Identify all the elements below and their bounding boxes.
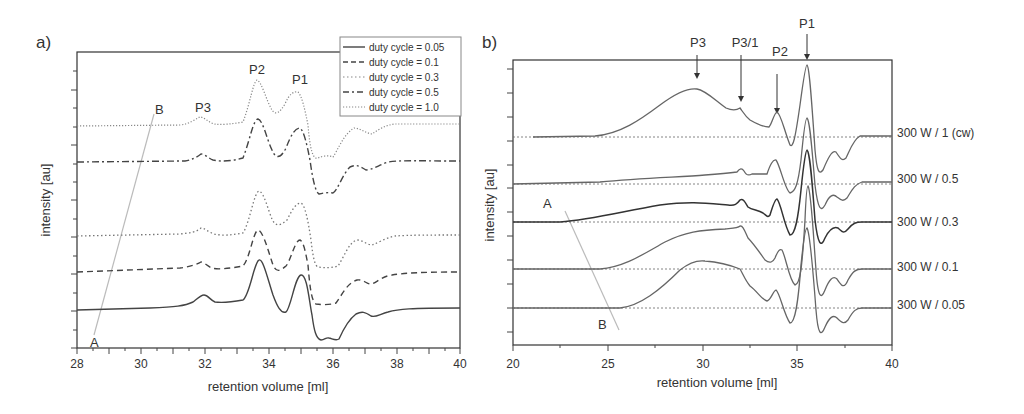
x-tick-label: 28 <box>70 357 84 371</box>
x-tick-label: 36 <box>326 357 340 371</box>
legend-entry: duty cycle = 0.3 <box>369 72 439 83</box>
legend-entry: duty cycle = 0.1 <box>369 57 439 68</box>
panel-b-x-tick-labels: 20 25 30 35 40 <box>506 357 899 371</box>
panel-a-legend: duty cycle = 0.05 duty cycle = 0.1 duty … <box>340 37 461 116</box>
series-duty-0.05 <box>77 260 460 340</box>
panel-b-label: b) <box>482 33 497 52</box>
x-tick-label: 20 <box>506 357 520 371</box>
legend-entry: duty cycle = 0.5 <box>369 87 439 98</box>
panel-b-guide-line <box>565 211 619 330</box>
peak-label-p3: P3 <box>690 35 706 50</box>
panel-a-annotation-b: B <box>155 102 164 117</box>
x-tick-label: 30 <box>696 357 710 371</box>
x-tick-label: 40 <box>453 357 467 371</box>
panel-a-label: a) <box>36 33 51 52</box>
legend-entry: duty cycle = 1.0 <box>369 102 439 113</box>
series-duty-0.1 <box>77 230 460 305</box>
x-tick-label: 35 <box>790 357 804 371</box>
series-label: 300 W / 0.1 <box>897 260 959 274</box>
panel-a-annotation-a: A <box>90 335 99 350</box>
legend-entry: duty cycle = 0.05 <box>369 42 445 53</box>
panel-a-y-axis-label: intensity [au] <box>38 164 53 237</box>
panel-a: a) <box>36 33 467 394</box>
panel-b-peak-markers: P3 P3/1 P2 P1 <box>690 16 815 114</box>
panel-a-peak-label-p2: P2 <box>249 62 265 77</box>
x-tick-label: 32 <box>198 357 212 371</box>
panel-a-peak-label-p3: P3 <box>195 100 211 115</box>
peak-label-p1: P1 <box>799 16 815 31</box>
x-tick-label: 34 <box>262 357 276 371</box>
figure: a) <box>0 0 1024 414</box>
x-tick-label: 38 <box>390 357 404 371</box>
panel-a-x-ticks <box>77 348 460 354</box>
panel-b-series-labels: 300 W / 1 (cw) 300 W / 0.5 300 W / 0.3 3… <box>897 126 974 312</box>
series-duty-0.5 <box>77 119 460 194</box>
panel-b-x-ticks <box>513 345 892 351</box>
series-300w-cw <box>533 65 892 172</box>
panel-b-x-axis-label: retention volume [ml] <box>657 375 778 390</box>
panel-a-x-tick-labels: 28 30 32 34 36 38 40 <box>70 357 467 371</box>
peak-label-p3-1: P3/1 <box>732 35 759 50</box>
panel-a-peak-label-p1: P1 <box>292 72 308 87</box>
series-label: 300 W / 0.5 <box>897 172 959 186</box>
x-tick-label: 40 <box>885 357 899 371</box>
panel-b-y-axis-label: intensity [au] <box>482 169 497 242</box>
panel-a-y-ticks <box>71 71 77 348</box>
panel-b: b) 20 25 30 35 40 retention volume [ml] <box>482 16 974 390</box>
x-tick-label: 25 <box>601 357 615 371</box>
series-label: 300 W / 1 (cw) <box>897 126 974 140</box>
panel-b-annotation-b: B <box>598 317 607 332</box>
panel-b-y-ticks <box>507 69 513 332</box>
series-label: 300 W / 0.3 <box>897 215 959 229</box>
panel-a-x-axis-label: retention volume [ml] <box>208 379 329 394</box>
peak-label-p2: P2 <box>772 44 788 59</box>
series-300w-0.3 <box>513 150 892 243</box>
series-label: 300 W / 0.05 <box>897 298 965 312</box>
panel-a-guide-line <box>94 114 154 335</box>
series-300w-0.5 <box>513 118 892 208</box>
x-tick-label: 30 <box>134 357 148 371</box>
series-300w-0.05 <box>513 228 892 333</box>
series-duty-0.3 <box>77 191 460 268</box>
panel-b-annotation-a: A <box>543 196 552 211</box>
